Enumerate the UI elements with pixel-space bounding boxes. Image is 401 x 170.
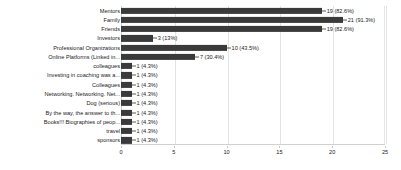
value-label: 1 (4.3%) [137, 63, 158, 70]
bar [121, 91, 132, 97]
bar-row: Colleagues1 (4.3%) [0, 80, 401, 89]
bar [121, 128, 132, 134]
leader-line [132, 103, 136, 104]
leader-line [132, 112, 136, 113]
bar-row: Investing in coaching was a...1 (4.3%) [0, 71, 401, 80]
bar-row: Online Platforms (Linked in...7 (30.4%) [0, 52, 401, 61]
value-label: 21 (91.3%) [348, 16, 375, 23]
bar [121, 119, 132, 125]
bar-row: Professional Organizations10 (43.5%) [0, 43, 401, 52]
x-tick-label: 5 [172, 149, 175, 156]
bar-row: travel1 (4.3%) [0, 126, 401, 135]
bar [121, 45, 227, 51]
leader-line [132, 94, 136, 95]
leader-line [195, 56, 199, 57]
bar-row: Dog (serious)1 (4.3%) [0, 99, 401, 108]
value-label: 1 (4.3%) [137, 100, 158, 107]
bar-row: Investors3 (13%) [0, 34, 401, 43]
category-label: travel [106, 128, 120, 135]
category-label: Investing in coaching was a... [47, 72, 120, 79]
value-label: 19 (82.6%) [327, 7, 354, 14]
x-tick-label: 25 [382, 149, 388, 156]
bar-row: Books!!! Biographies of peop...1 (4.3%) [0, 117, 401, 126]
leader-line [227, 47, 231, 48]
bar-row: sponsors1 (4.3%) [0, 136, 401, 145]
bar [121, 35, 153, 41]
x-tick [385, 146, 386, 148]
category-label: Networking. Networking. Net... [44, 91, 120, 98]
category-label: colleagues [93, 63, 120, 70]
leader-line [132, 121, 136, 122]
leader-line [132, 66, 136, 67]
bar-chart: Mentors19 (82.6%)Family21 (91.3%)Friends… [0, 0, 401, 170]
leader-line [153, 38, 157, 39]
leader-line [132, 84, 136, 85]
value-label: 1 (4.3%) [137, 72, 158, 79]
bar [121, 8, 322, 14]
bar [121, 72, 132, 78]
bar-row: Networking. Networking. Net...1 (4.3%) [0, 89, 401, 98]
x-tick [174, 146, 175, 148]
category-label: Friends [101, 26, 120, 33]
leader-line [132, 75, 136, 76]
bar [121, 137, 132, 143]
leader-line [322, 29, 326, 30]
value-label: 1 (4.3%) [137, 118, 158, 125]
bar [121, 109, 132, 115]
x-tick [227, 146, 228, 148]
category-label: Mentors [100, 7, 120, 14]
category-label: sponsors [97, 137, 120, 144]
bar-row: Family21 (91.3%) [0, 15, 401, 24]
x-axis: 0510152025 [0, 146, 401, 160]
x-tick-label: 15 [276, 149, 282, 156]
x-tick [279, 146, 280, 148]
value-label: 10 (43.5%) [232, 44, 259, 51]
x-tick [121, 146, 122, 148]
value-label: 1 (4.3%) [137, 109, 158, 116]
value-label: 1 (4.3%) [137, 81, 158, 88]
x-tick-label: 20 [329, 149, 335, 156]
bar-row: colleagues1 (4.3%) [0, 62, 401, 71]
bar [121, 26, 322, 32]
bar [121, 63, 132, 69]
value-label: 1 (4.3%) [137, 128, 158, 135]
bar [121, 82, 132, 88]
bar-row: Mentors19 (82.6%) [0, 6, 401, 15]
category-label: Online Platforms (Linked in... [48, 53, 120, 60]
value-label: 19 (82.6%) [327, 26, 354, 33]
value-label: 3 (13%) [158, 35, 178, 42]
bar-rows: Mentors19 (82.6%)Family21 (91.3%)Friends… [0, 6, 401, 145]
x-tick [332, 146, 333, 148]
x-tick-label: 0 [119, 149, 122, 156]
category-label: Family [104, 16, 120, 23]
category-label: By the way, the answer to th... [45, 109, 120, 116]
value-label: 1 (4.3%) [137, 91, 158, 98]
category-label: Investors [97, 35, 120, 42]
bar-row: Friends19 (82.6%) [0, 25, 401, 34]
leader-line [343, 19, 347, 20]
category-label: Dog (serious) [86, 100, 120, 107]
leader-line [322, 10, 326, 11]
bar [121, 54, 195, 60]
x-tick-label: 10 [223, 149, 229, 156]
category-label: Colleagues [92, 81, 120, 88]
category-label: Books!!! Biographies of peop... [44, 118, 120, 125]
leader-line [132, 140, 136, 141]
category-label: Professional Organizations [53, 44, 120, 51]
bar [121, 100, 132, 106]
bar [121, 17, 343, 23]
value-label: 7 (30.4%) [200, 53, 224, 60]
value-label: 1 (4.3%) [137, 137, 158, 144]
bar-row: By the way, the answer to th...1 (4.3%) [0, 108, 401, 117]
leader-line [132, 131, 136, 132]
